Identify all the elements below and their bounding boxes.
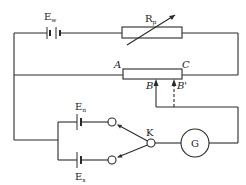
standard-cell-label: En [75,101,86,113]
standard-cell-icon [77,114,81,130]
switch-blade-lower[interactable] [118,145,148,157]
terminal-standard-icon[interactable] [108,118,116,126]
potentiometer-circuit-diagram: Ew Rp A C B B' En Ex K G [0,0,246,185]
label-B-prime: B' [176,80,187,91]
rheostat-icon [122,27,182,38]
galvanometer-label: G [191,138,199,149]
unknown-cell-label: Ex [75,171,86,183]
rheostat-label: Rp [145,13,157,26]
unknown-cell-icon [77,152,81,168]
switch-pivot-icon [147,139,155,147]
label-B: B [145,80,153,91]
slide-wire-icon [123,69,182,79]
terminal-unknown-icon[interactable] [108,156,116,164]
working-battery-icon [47,27,60,39]
switch-label: K [146,127,154,138]
working-battery-label: Ew [44,11,57,23]
label-A: A [113,59,121,70]
switch-blade-upper[interactable] [118,125,148,141]
label-C: C [182,59,190,70]
